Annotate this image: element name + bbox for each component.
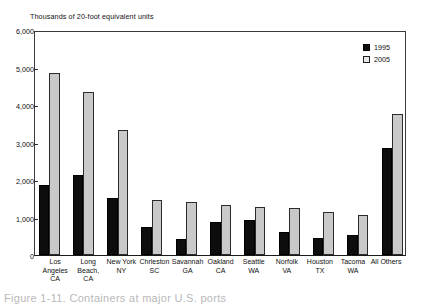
y-tick-label: 3,000 (4, 140, 34, 147)
y-tick-label: 6,000 (4, 28, 34, 35)
y-tick-label: 5,000 (4, 65, 34, 72)
bar-2005[interactable] (83, 92, 94, 255)
bar-1995[interactable] (73, 175, 84, 255)
bar-group (313, 31, 334, 255)
bar-1995[interactable] (107, 198, 118, 255)
y-tick-label: 4,000 (4, 103, 34, 110)
chart-legend: 19952005 (363, 44, 390, 63)
bar-1995[interactable] (347, 235, 358, 256)
x-axis-labels: Los Angeles CALong Beach, CANew York NYC… (36, 258, 406, 284)
x-tick-label: Los Angeles CA (39, 258, 72, 284)
bar-1995[interactable] (279, 232, 290, 255)
x-tick-label: Long Beach, CA (72, 258, 105, 284)
bar-2005[interactable] (152, 200, 163, 256)
x-tick-label: Chrleston SC (138, 258, 171, 284)
legend-swatch-icon (363, 56, 370, 63)
bar-1995[interactable] (141, 227, 152, 255)
bar-1995[interactable] (382, 148, 393, 256)
legend-label: 1995 (374, 44, 390, 51)
bar-2005[interactable] (49, 73, 60, 256)
bar-2005[interactable] (358, 215, 369, 256)
x-tick-label: New York NY (105, 258, 138, 284)
x-tick-label: Tacoma WA (336, 258, 369, 284)
bar-2005[interactable] (118, 130, 129, 255)
bar-1995[interactable] (210, 222, 221, 255)
bar-2005[interactable] (289, 208, 300, 255)
bar-2005[interactable] (255, 207, 266, 255)
chart-figure: Thousands of 20-foot equivalent units 01… (0, 0, 438, 305)
bar-group (347, 31, 368, 255)
bar-group (382, 31, 403, 255)
bar-1995[interactable] (313, 238, 324, 255)
bar-2005[interactable] (221, 205, 232, 255)
y-tick-mark (34, 181, 38, 182)
bar-2005[interactable] (392, 114, 403, 255)
legend-swatch-icon (363, 44, 370, 51)
bar-group (73, 31, 94, 255)
x-tick-label: Oakland CA (204, 258, 237, 284)
y-tick-label: 0 (4, 253, 34, 260)
y-axis: 01,0002,0003,0004,0005,0006,000 (0, 0, 34, 305)
bar-group (107, 31, 128, 255)
y-tick-label: 2,000 (4, 178, 34, 185)
bar-group (279, 31, 300, 255)
figure-caption: Figure 1-11. Containers at major U.S. po… (4, 292, 226, 304)
y-tick-label: 1,000 (4, 215, 34, 222)
x-tick-label: Houston TX (303, 258, 336, 284)
legend-item[interactable]: 2005 (363, 56, 390, 63)
bar-1995[interactable] (39, 185, 50, 255)
bar-group (39, 31, 60, 255)
bar-2005[interactable] (323, 212, 334, 255)
bar-1995[interactable] (176, 239, 187, 255)
y-tick-mark (34, 69, 38, 70)
x-tick-label: Seattle WA (237, 258, 270, 284)
bar-group (141, 31, 162, 255)
y-axis-title: Thousands of 20-foot equivalent units (30, 12, 154, 21)
bar-group (210, 31, 231, 255)
bar-group (176, 31, 197, 255)
x-tick-label: Norfolk VA (270, 258, 303, 284)
y-tick-mark (34, 106, 38, 107)
bar-groups (36, 31, 406, 255)
y-tick-mark (34, 144, 38, 145)
bar-group (244, 31, 265, 255)
bar-1995[interactable] (244, 220, 255, 256)
legend-item[interactable]: 1995 (363, 44, 390, 51)
y-tick-mark (34, 219, 38, 220)
x-tick-label: All Others (370, 258, 403, 284)
bar-2005[interactable] (186, 202, 197, 255)
x-tick-label: Savannah GA (171, 258, 204, 284)
legend-label: 2005 (374, 56, 390, 63)
